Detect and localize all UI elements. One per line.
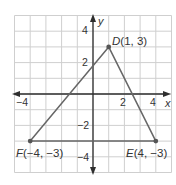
point-d-coords: (1, 3) xyxy=(120,35,147,47)
point-d xyxy=(106,45,111,50)
y-axis-label: y xyxy=(97,15,105,27)
point-f-coords: (−4, −3) xyxy=(23,147,63,159)
point-f xyxy=(28,139,33,144)
y-tick-label: 2 xyxy=(82,56,88,68)
y-tick-label: −4 xyxy=(77,151,89,163)
point-e-label: E(4, −3) xyxy=(126,147,167,159)
x-tick-label: −4 xyxy=(16,96,28,108)
point-f-label: F(−4, −3) xyxy=(16,147,63,159)
x-tick-label: 4 xyxy=(150,96,156,108)
point-e xyxy=(153,139,158,144)
x-axis-label: x xyxy=(164,97,171,109)
y-tick-label: 4 xyxy=(82,24,88,36)
point-e-coords: (4, −3) xyxy=(134,147,168,159)
coordinate-plane-figure: x y −4 2 4 4 2 −2 −4 D(1, 3) E(4, − xyxy=(0,0,176,185)
y-tick-label: −2 xyxy=(77,119,89,131)
y-axis-bottom-arrow-icon xyxy=(90,167,96,175)
point-d-label: D(1, 3) xyxy=(112,35,147,47)
x-tick-label: 2 xyxy=(120,96,126,108)
point-d-name: D xyxy=(112,35,120,47)
